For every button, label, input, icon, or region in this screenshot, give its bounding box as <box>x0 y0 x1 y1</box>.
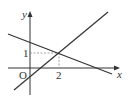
origin-label: O <box>19 69 27 81</box>
x-tick-label: 2 <box>56 69 62 81</box>
coordinate-graph: y x O 1 2 <box>0 0 134 107</box>
x-axis-label: x <box>116 68 122 80</box>
y-axis-arrow-icon <box>28 11 33 17</box>
y-tick-label: 1 <box>23 47 29 59</box>
y-axis-label: y <box>21 8 27 20</box>
